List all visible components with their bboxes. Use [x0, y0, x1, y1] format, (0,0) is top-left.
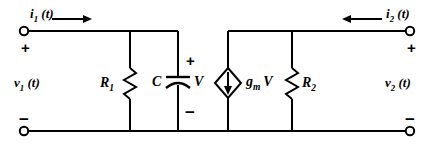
r1-resistor-zigzag — [124, 68, 136, 99]
capacitor-minus-sign: − — [185, 104, 195, 121]
capacitor-node-voltage-label: V — [194, 75, 203, 89]
r2-component-label: R2 — [302, 76, 316, 93]
left-port-minus-sign: − — [19, 111, 29, 128]
right-port-plus-sign: + — [407, 40, 416, 55]
circuit-diagram-canvas: i1 (t) i2 (t) + − + − v1 (t) v2 (t) R1 C… — [0, 0, 434, 149]
v1-voltage-label: v1 (t) — [14, 76, 40, 92]
left-port-plus-sign: + — [21, 40, 30, 55]
right-port-minus-sign: − — [405, 111, 415, 128]
r2-resistor-zigzag — [286, 68, 298, 99]
r1-component-label: R1 — [100, 76, 114, 93]
i2-current-label: i2 (t) — [386, 7, 410, 23]
i2-arrow-head — [342, 15, 351, 23]
i1-arrow-head — [83, 15, 92, 23]
capacitor-component-label: C — [152, 75, 161, 89]
circuit-schematic-svg — [0, 0, 434, 149]
right-top-terminal-node — [406, 27, 414, 35]
capacitor-plus-sign: + — [186, 53, 195, 68]
gmv-source-label: gm V — [246, 75, 273, 92]
v2-voltage-label: v2 (t) — [385, 76, 411, 92]
left-top-terminal-node — [20, 27, 28, 35]
i1-current-label: i1 (t) — [30, 7, 54, 23]
